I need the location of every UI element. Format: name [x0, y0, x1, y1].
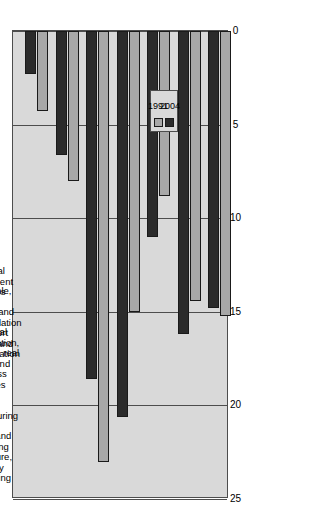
bar-2004	[208, 31, 219, 308]
category-label-line: business	[0, 369, 48, 380]
legend-swatches	[154, 118, 174, 127]
bar-2004	[117, 31, 128, 417]
category-label: Manufacturing	[0, 410, 48, 421]
bar-group	[105, 31, 136, 497]
bar-group	[13, 31, 44, 497]
value-tick-10: 10	[230, 212, 241, 223]
category-label: Mining andQuarrying	[0, 431, 48, 452]
category-label-line: Manufacturing	[0, 410, 48, 421]
bar-2004	[147, 31, 158, 237]
value-tick-15: 15	[230, 305, 241, 316]
category-label: Transportstorage andcommunication	[0, 328, 48, 360]
category-label: Agriculture,forestryand fishing	[0, 451, 48, 483]
legend-labels: 1991 2004	[153, 95, 175, 117]
legend-label-2004: 2004	[159, 101, 181, 111]
category-label-line: forestry	[0, 462, 48, 473]
gridline-25	[13, 499, 227, 500]
plot-frame	[12, 30, 228, 498]
category-label-line: government	[0, 276, 48, 287]
category-label: Generalgovernmentservices	[0, 266, 48, 298]
category-label-line: Agriculture,	[0, 451, 48, 462]
bar-2004	[178, 31, 189, 334]
bar-2004	[86, 31, 97, 379]
value-tick-20: 20	[230, 399, 241, 410]
category-label-line: accommodation	[0, 318, 48, 329]
value-tick-0: 0	[233, 25, 239, 36]
bar-2004	[56, 31, 67, 155]
bar-group	[74, 31, 105, 497]
plot-area	[13, 31, 227, 497]
bar-group	[196, 31, 227, 497]
category-label-line: estate and	[0, 359, 48, 370]
value-tick-25: 25	[230, 493, 241, 504]
legend-swatch-2004	[165, 118, 174, 127]
legend: 1991 2004	[150, 90, 178, 132]
bar-group	[44, 31, 75, 497]
category-label-line: and fishing	[0, 472, 48, 483]
value-axis: 2520151050	[230, 30, 256, 498]
value-tick-5: 5	[233, 118, 239, 129]
legend-swatch-1991	[154, 118, 163, 127]
category-label-line: Mining and	[0, 431, 48, 442]
category-label-line: communication	[0, 349, 48, 360]
bar-2004	[25, 31, 36, 74]
category-label-line: Quarrying	[0, 441, 48, 452]
chart-stage: 2520151050 Agriculture,forestryand fishi…	[0, 0, 310, 530]
category-label-line: services	[0, 287, 48, 298]
category-label-line: services	[0, 380, 48, 391]
